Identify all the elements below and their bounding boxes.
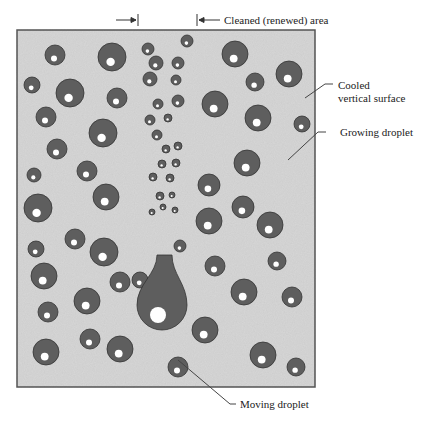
droplet-highlight bbox=[44, 313, 50, 319]
droplet bbox=[202, 91, 228, 117]
droplet bbox=[98, 43, 126, 71]
moving-droplet-highlight bbox=[150, 307, 166, 323]
droplet bbox=[222, 41, 248, 67]
droplet-highlight bbox=[82, 302, 90, 310]
cleaned-area-label: Cleaned (renewed) area bbox=[224, 14, 328, 26]
droplet bbox=[276, 61, 302, 87]
droplet-highlight bbox=[160, 164, 162, 166]
droplet bbox=[149, 56, 163, 70]
droplet bbox=[149, 173, 157, 181]
droplet-highlight bbox=[258, 356, 266, 364]
droplet-highlight bbox=[178, 246, 182, 250]
droplet bbox=[250, 342, 276, 368]
droplet-highlight bbox=[116, 283, 122, 289]
droplet-highlight bbox=[230, 55, 238, 63]
droplet-highlight bbox=[113, 99, 119, 105]
droplet bbox=[174, 142, 182, 150]
droplet-highlight bbox=[158, 196, 160, 198]
droplet bbox=[294, 116, 310, 132]
droplet bbox=[36, 107, 56, 127]
droplet bbox=[172, 57, 184, 69]
droplet bbox=[162, 145, 170, 153]
droplet bbox=[28, 241, 44, 257]
droplet-highlight bbox=[210, 105, 218, 113]
droplet bbox=[174, 240, 186, 252]
droplet bbox=[172, 207, 178, 213]
droplet-highlight bbox=[273, 261, 278, 266]
droplet-highlight bbox=[162, 207, 164, 209]
droplet bbox=[142, 43, 154, 55]
droplet-highlight bbox=[64, 94, 72, 102]
droplet-highlight bbox=[242, 164, 250, 172]
droplet-highlight bbox=[164, 149, 166, 151]
droplet-highlight bbox=[148, 120, 151, 123]
droplet bbox=[164, 114, 172, 122]
droplet-highlight bbox=[176, 63, 180, 67]
droplet bbox=[171, 75, 181, 85]
droplet bbox=[245, 105, 271, 131]
droplet-highlight bbox=[151, 212, 153, 214]
droplet-highlight bbox=[265, 226, 273, 234]
droplet bbox=[77, 161, 97, 181]
droplet-highlight bbox=[153, 63, 157, 67]
droplet bbox=[38, 302, 58, 322]
droplet-highlight bbox=[284, 75, 292, 83]
droplet bbox=[149, 209, 155, 215]
droplet bbox=[181, 35, 193, 47]
droplet-highlight bbox=[53, 150, 59, 156]
droplet-highlight bbox=[174, 163, 176, 165]
droplet bbox=[27, 168, 41, 182]
droplet-highlight bbox=[83, 172, 89, 178]
droplet bbox=[31, 263, 57, 289]
droplet bbox=[107, 88, 127, 108]
moving-droplet-label: Moving droplet bbox=[240, 398, 309, 410]
droplet-highlight bbox=[41, 353, 49, 361]
droplet-highlight bbox=[31, 175, 35, 179]
droplet-highlight bbox=[115, 350, 123, 358]
droplet-highlight bbox=[239, 293, 247, 301]
droplet bbox=[192, 317, 218, 343]
droplet-highlight bbox=[253, 119, 261, 127]
cooled-surface-label-line2: vertical surface bbox=[338, 92, 405, 104]
droplet bbox=[282, 287, 302, 307]
droplet-highlight bbox=[176, 146, 178, 148]
droplet bbox=[90, 238, 118, 266]
droplet bbox=[33, 339, 59, 365]
droplet-highlight bbox=[51, 56, 57, 62]
droplet-highlight bbox=[239, 208, 246, 215]
condensation-diagram bbox=[0, 0, 423, 421]
droplet-highlight bbox=[204, 222, 212, 230]
droplet bbox=[198, 174, 220, 196]
droplet bbox=[89, 119, 117, 147]
droplet-highlight bbox=[86, 340, 92, 346]
droplet bbox=[47, 139, 67, 159]
droplet-highlight bbox=[33, 249, 38, 254]
droplet-highlight bbox=[299, 124, 304, 129]
droplet bbox=[156, 192, 164, 200]
droplet-highlight bbox=[176, 101, 180, 105]
droplet bbox=[166, 174, 174, 182]
droplet-highlight bbox=[71, 240, 77, 246]
droplet-highlight bbox=[147, 79, 151, 83]
droplet bbox=[160, 204, 166, 210]
droplet-highlight bbox=[101, 198, 109, 206]
droplet bbox=[56, 79, 84, 107]
droplet-highlight bbox=[151, 177, 153, 179]
droplet bbox=[268, 252, 286, 270]
droplet-highlight bbox=[251, 82, 256, 87]
droplet-highlight bbox=[32, 209, 40, 217]
cleaned-area-dimension-arrows bbox=[116, 14, 220, 26]
droplet-highlight bbox=[98, 253, 106, 261]
droplet bbox=[143, 72, 157, 86]
droplet-highlight bbox=[168, 178, 170, 180]
droplet bbox=[257, 212, 283, 238]
droplet bbox=[158, 160, 166, 168]
droplet bbox=[93, 184, 119, 210]
droplet-highlight bbox=[166, 118, 168, 120]
droplet-highlight bbox=[137, 280, 142, 285]
droplet-highlight bbox=[97, 134, 105, 142]
droplet bbox=[80, 329, 100, 349]
droplet bbox=[24, 77, 40, 93]
droplet-highlight bbox=[155, 135, 158, 138]
droplet-highlight bbox=[211, 267, 217, 273]
